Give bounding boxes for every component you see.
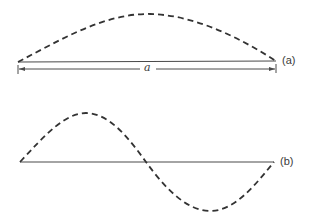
part-b-label: (b) [280, 156, 293, 167]
part-b [20, 113, 274, 211]
arrowhead-left-icon [19, 67, 25, 71]
arrowhead-right-icon [269, 67, 275, 71]
standing-wave-diagram [0, 0, 310, 220]
part-a-mode-curve [18, 14, 276, 62]
part-a-label: (a) [282, 55, 295, 66]
dimension-label: a [142, 62, 153, 73]
